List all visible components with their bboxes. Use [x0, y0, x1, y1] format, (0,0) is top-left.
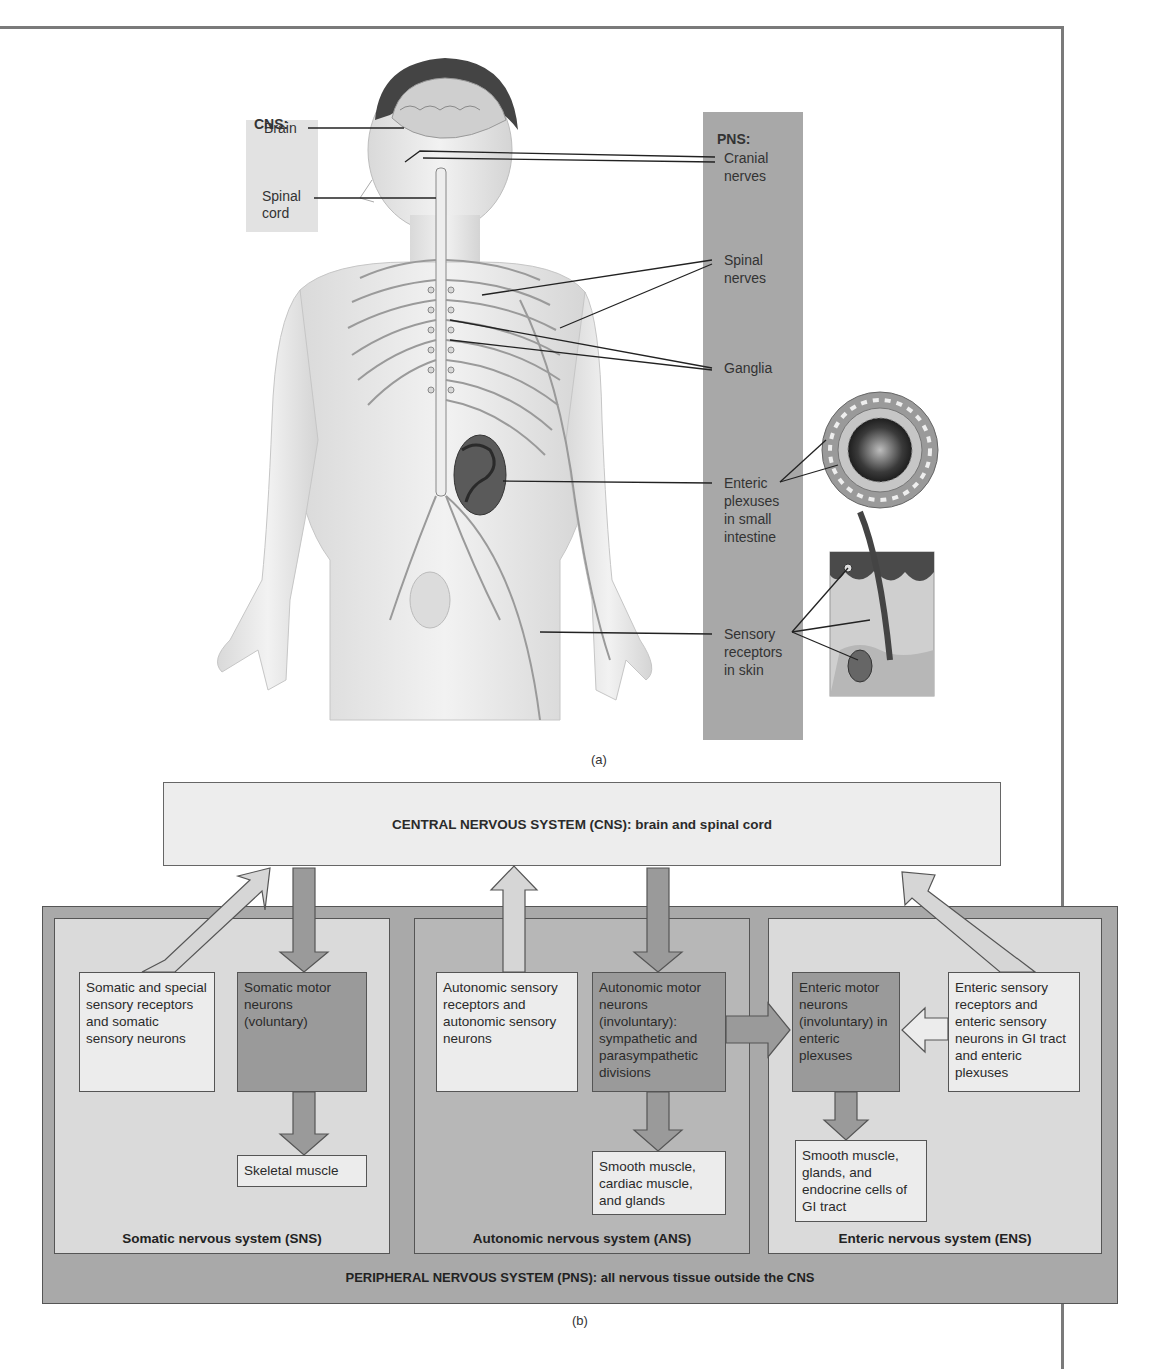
sns-motor-box: Somatic motor neurons (voluntary) [237, 972, 367, 1092]
cns-box: CENTRAL NERVOUS SYSTEM (CNS): brain and … [163, 782, 1001, 866]
ans-sensory-box: Autonomic sensory receptors and autonomi… [436, 972, 578, 1092]
spinal-nerves-label-2: nerves [724, 270, 766, 287]
ens-sensory-box: Enteric sensory receptors and enteric se… [948, 972, 1080, 1092]
pns-footer-label: PERIPHERAL NERVOUS SYSTEM (PNS): all ner… [42, 1270, 1118, 1285]
enteric-plexuses-label-1: Enteric [724, 475, 768, 492]
cranial-nerves-label-1: Cranial [724, 150, 768, 167]
spinal-cord-label-2: cord [262, 205, 289, 222]
ens-title: Enteric nervous system (ENS) [769, 1230, 1101, 1247]
sns-title: Somatic nervous system (SNS) [55, 1230, 389, 1247]
ans-effector-box: Smooth muscle, cardiac muscle, and gland… [592, 1151, 726, 1215]
ens-effector-box: Smooth muscle, glands, and endocrine cel… [795, 1140, 927, 1222]
cranial-nerves-label-2: nerves [724, 168, 766, 185]
sensory-receptors-label-3: in skin [724, 662, 764, 679]
sensory-receptors-label-2: receptors [724, 644, 782, 661]
ans-motor-box: Autonomic motor neurons (involuntary): s… [592, 972, 726, 1092]
enteric-plexuses-label-2: plexuses [724, 493, 779, 510]
brain-label: Brain [264, 120, 297, 137]
spinal-nerves-label-1: Spinal [724, 252, 763, 269]
caption-a: (a) [591, 752, 607, 767]
enteric-plexuses-label-4: intestine [724, 529, 776, 546]
enteric-plexuses-label-3: in small [724, 511, 771, 528]
ens-motor-box: Enteric motor neurons (involuntary) in e… [792, 972, 900, 1092]
ans-title: Autonomic nervous system (ANS) [415, 1230, 749, 1247]
sns-sensory-box: Somatic and special sensory receptors an… [79, 972, 215, 1092]
sensory-receptors-label-1: Sensory [724, 626, 775, 643]
spinal-cord-label-1: Spinal [262, 188, 301, 205]
pns-heading: PNS: [717, 131, 750, 148]
ganglia-label: Ganglia [724, 360, 772, 377]
caption-b: (b) [572, 1313, 588, 1328]
sns-effector-box: Skeletal muscle [237, 1155, 367, 1187]
cns-box-label: CENTRAL NERVOUS SYSTEM (CNS): brain and … [392, 816, 772, 833]
